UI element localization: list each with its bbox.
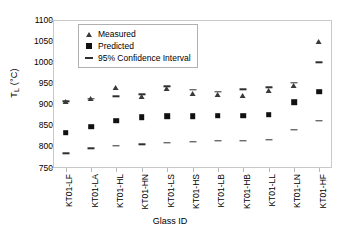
y-tick-label: 800 <box>19 142 53 151</box>
x-tick-label: KT01-HS <box>192 174 201 209</box>
measured-data-point <box>316 39 322 44</box>
y-axis-title-subscript: L <box>13 88 20 92</box>
x-tick-mark <box>167 168 168 172</box>
y-tick-label: 1000 <box>19 58 53 67</box>
y-tick-label: 850 <box>19 121 53 130</box>
triangle-marker-icon <box>83 32 95 37</box>
measured-data-point <box>214 92 220 97</box>
confidence-interval-upper-marker <box>316 62 323 63</box>
y-tick-label: 750 <box>19 164 53 173</box>
legend-label-predicted: Predicted <box>95 41 134 51</box>
y-tick-label: 1050 <box>19 37 53 46</box>
confidence-interval-lower-marker <box>164 142 171 143</box>
predicted-data-point <box>266 112 272 118</box>
confidence-interval-lower-marker <box>265 139 272 140</box>
predicted-data-point <box>215 113 221 119</box>
liquidus-temperature-scatter-chart: TL (°C) 750800850900950100010501100 KT01… <box>0 0 340 233</box>
legend-item-measured: Measured <box>83 28 191 40</box>
x-tick-label: KT01-HB <box>242 174 251 209</box>
x-tick-mark <box>243 168 244 172</box>
y-axis-title: TL (°C) <box>9 53 19 113</box>
legend-label-confidence-interval: 95% Confidence Interval <box>95 53 191 63</box>
legend-item-predicted: Predicted <box>83 40 191 52</box>
chart-legend: Measured Predicted 95% Confidence Interv… <box>78 24 198 68</box>
confidence-interval-lower-marker <box>189 141 196 142</box>
measured-data-point <box>62 99 68 104</box>
predicted-data-point <box>291 100 297 106</box>
x-tick-mark <box>66 168 67 172</box>
measured-data-point <box>189 91 195 96</box>
x-tick-mark <box>294 168 295 172</box>
x-tick-mark <box>319 168 320 172</box>
y-tick-label: 1100 <box>19 16 53 25</box>
x-tick-label: KT01-LA <box>90 174 99 208</box>
predicted-data-point <box>317 89 323 95</box>
measured-data-point <box>138 94 144 99</box>
y-tick-label: 950 <box>19 79 53 88</box>
dash-marker-icon <box>83 57 95 59</box>
confidence-interval-lower-marker <box>62 152 69 153</box>
predicted-data-point <box>114 118 120 124</box>
confidence-interval-lower-marker <box>316 120 323 121</box>
square-marker-icon <box>83 43 95 48</box>
x-tick-mark <box>193 168 194 172</box>
confidence-interval-upper-marker <box>240 89 247 90</box>
legend-label-measured: Measured <box>95 29 136 39</box>
confidence-interval-lower-marker <box>113 145 120 146</box>
measured-data-point <box>113 85 119 90</box>
x-tick-label: KT01-HL <box>115 174 124 208</box>
measured-data-point <box>240 93 246 98</box>
x-tick-mark <box>269 168 270 172</box>
confidence-interval-lower-marker <box>290 129 297 130</box>
measured-data-point <box>88 96 94 101</box>
x-tick-mark <box>91 168 92 172</box>
confidence-interval-lower-marker <box>88 147 95 148</box>
measured-data-point <box>164 86 170 91</box>
y-tick-label: 900 <box>19 100 53 109</box>
x-axis-title: Glass ID <box>0 216 340 226</box>
x-tick-mark <box>142 168 143 172</box>
measured-data-point <box>291 83 297 88</box>
x-tick-label: KT01-LB <box>217 174 226 208</box>
y-axis-title-base: T <box>9 92 19 98</box>
predicted-data-point <box>164 114 170 120</box>
predicted-data-point <box>63 130 69 136</box>
confidence-interval-upper-marker <box>113 95 120 96</box>
confidence-interval-lower-marker <box>214 140 221 141</box>
x-tick-label: KT01-LS <box>166 174 175 208</box>
legend-item-confidence-interval: 95% Confidence Interval <box>83 52 191 64</box>
x-tick-mark <box>116 168 117 172</box>
predicted-data-point <box>190 114 196 120</box>
measured-data-point <box>265 88 271 93</box>
x-tick-label: KT01-LL <box>268 174 277 207</box>
x-tick-label: KT01-HF <box>318 174 327 208</box>
confidence-interval-lower-marker <box>138 144 145 145</box>
predicted-data-point <box>240 113 246 119</box>
x-tick-label: KT01-LF <box>65 174 74 207</box>
predicted-data-point <box>88 124 94 130</box>
x-tick-label: KT01-LN <box>293 174 302 208</box>
confidence-interval-lower-marker <box>240 140 247 141</box>
x-tick-mark <box>218 168 219 172</box>
y-axis-title-unit: (°C) <box>9 68 19 88</box>
predicted-data-point <box>139 114 145 120</box>
y-tick-mark <box>50 168 53 169</box>
x-tick-label: KT01-HN <box>141 174 150 209</box>
